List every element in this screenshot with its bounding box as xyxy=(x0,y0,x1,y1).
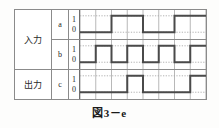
output-group: 出力 c 1 0 xyxy=(15,70,206,99)
level-high-label-b: 1 xyxy=(72,45,76,55)
signal-name-b: b xyxy=(52,40,69,69)
waveform-a xyxy=(80,10,206,39)
signal-levels-c: 1 0 xyxy=(69,70,80,99)
level-high-label-c: 1 xyxy=(72,75,76,85)
output-signal-rows: c 1 0 xyxy=(52,70,206,99)
signal-row-b: b 1 0 xyxy=(52,40,206,69)
figure-root: 入力 a 1 0 b 1 xyxy=(0,0,219,128)
input-group-label: 入力 xyxy=(15,10,52,69)
signal-levels-a: 1 0 xyxy=(69,10,80,39)
level-low-label-b: 0 xyxy=(72,55,76,65)
level-high-label-a: 1 xyxy=(72,15,76,25)
figure-caption: 図3－e xyxy=(0,104,219,120)
input-signal-rows: a 1 0 b 1 0 xyxy=(52,10,206,69)
signal-name-a: a xyxy=(52,10,69,39)
signal-row-a: a 1 0 xyxy=(52,10,206,40)
level-low-label-c: 0 xyxy=(72,85,76,95)
signal-name-c: c xyxy=(52,70,69,99)
input-group: 入力 a 1 0 b 1 xyxy=(15,10,206,70)
waveform-c xyxy=(80,70,206,99)
signal-row-c: c 1 0 xyxy=(52,70,206,99)
level-low-label-a: 0 xyxy=(72,25,76,35)
waveform-b xyxy=(80,40,206,69)
output-group-label: 出力 xyxy=(15,70,52,99)
signal-levels-b: 1 0 xyxy=(69,40,80,69)
timing-diagram-table: 入力 a 1 0 b 1 xyxy=(14,9,207,100)
